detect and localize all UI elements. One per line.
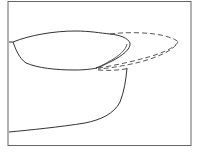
- hull-stem: [85, 68, 127, 123]
- solid-bulb-inner-contour: [96, 44, 127, 68]
- hull-keel-line: [9, 123, 85, 132]
- dashed-bulb-return-outer: [98, 42, 178, 68]
- dashed-bulb-return-inner: [98, 45, 176, 69]
- dashed-bulb-upper-contour: [110, 33, 178, 42]
- frame-border: [8, 2, 191, 146]
- solid-bulb-lower-contour: [13, 42, 97, 70]
- hull-profile-drawing: [0, 0, 197, 152]
- solid-bulb-upper-contour: [9, 31, 130, 68]
- dashed-bulb-lower-contour: [98, 68, 130, 70]
